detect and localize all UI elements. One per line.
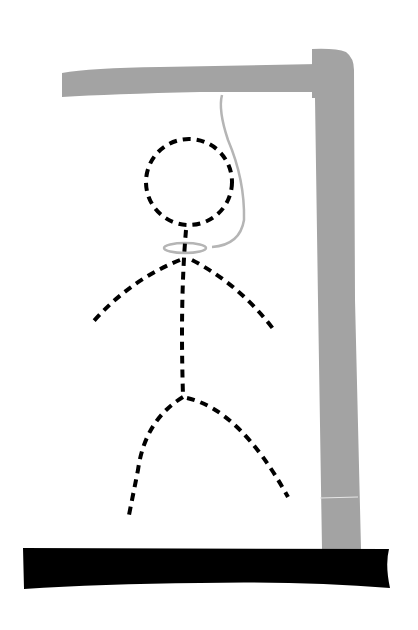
head xyxy=(146,139,232,225)
right-leg xyxy=(187,398,288,497)
base-platform xyxy=(23,548,390,589)
left-arm xyxy=(93,260,180,322)
gallows-post xyxy=(312,49,361,549)
body xyxy=(182,230,186,395)
right-arm xyxy=(192,260,274,330)
hangman-illustration xyxy=(0,0,418,630)
gallows-beam xyxy=(62,64,318,97)
left-leg xyxy=(128,397,183,520)
rope xyxy=(212,95,244,247)
stick-figure xyxy=(93,139,288,520)
